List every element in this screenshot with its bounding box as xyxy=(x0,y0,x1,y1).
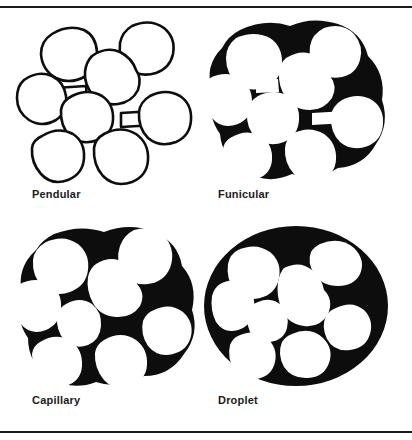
droplet-diagram xyxy=(200,222,396,392)
panel-label-droplet: Droplet xyxy=(218,394,258,406)
panel-label-funicular: Funicular xyxy=(218,188,269,200)
funicular-diagram xyxy=(200,16,396,186)
panel-capillary: Capillary xyxy=(8,222,204,422)
panel-droplet: Droplet xyxy=(200,222,396,422)
capillary-diagram xyxy=(8,222,204,392)
bottom-rule xyxy=(0,431,412,433)
panel-label-pendular: Pendular xyxy=(32,188,81,200)
panel-funicular: Funicular xyxy=(200,16,396,216)
top-rule xyxy=(0,6,412,8)
pendular-diagram xyxy=(8,16,204,186)
panel-pendular: Pendular xyxy=(8,16,204,216)
figure-root: Pendular xyxy=(0,0,412,440)
panel-label-capillary: Capillary xyxy=(32,394,80,406)
pendular-particles xyxy=(17,22,191,184)
